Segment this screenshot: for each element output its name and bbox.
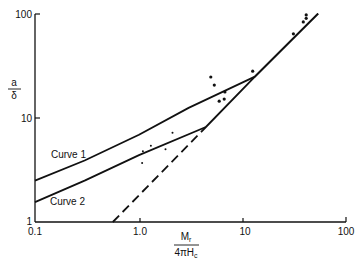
data-point [223,98,226,101]
axes [35,14,346,222]
x-label-denominator: 4πHc [174,247,198,259]
y-axis-label: a δ [8,77,21,101]
data-point [142,150,144,152]
y-label-numerator: a [11,77,17,88]
data-point [251,70,254,73]
curve-2-label: Curve 2 [50,196,85,207]
data-point [292,32,295,35]
data-point [165,148,167,150]
x-tick-label-100: 100 [338,226,355,237]
x-axis-label: Mr 4πHc [174,231,199,259]
x-tick-label-1: 1.0 [133,226,147,237]
series-layer [35,13,318,222]
curve-1-label: Curve 1 [51,149,86,160]
data-point [302,20,305,23]
x-label-num-sub: r [189,236,192,243]
y-tick-label-100: 100 [15,9,32,20]
x-label-num-main: M [181,231,189,242]
data-point [223,90,226,93]
data-point [172,132,174,134]
y-label-denominator: δ [11,90,17,101]
data-point [209,75,212,78]
x-label-den-main: 4πH [174,247,194,258]
y-tick-label-10: 10 [21,113,33,124]
x-label-numerator: Mr [181,231,192,243]
data-point [305,17,308,20]
data-point [150,145,152,147]
x-label-den-sub: c [194,252,198,259]
data-point [305,13,308,16]
data-point [218,100,221,103]
x-tick-label-10: 10 [239,226,251,237]
chart: 100 10 1 0.1 1.0 10 100 a δ Mr 4πHc Curv… [0,0,360,262]
curve-labels: Curve 1 Curve 2 [50,149,86,207]
curve-2-line [35,14,318,203]
x-tick-label-0.1: 0.1 [28,226,42,237]
data-point [141,162,143,164]
scatter-points [141,13,308,164]
data-point [213,84,216,87]
